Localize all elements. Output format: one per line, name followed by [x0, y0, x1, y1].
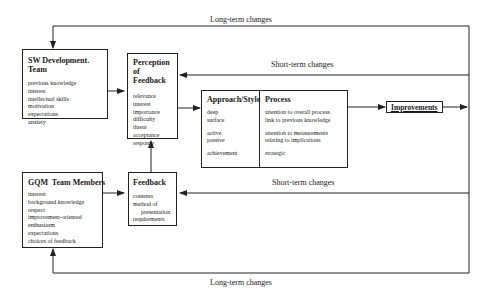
improvements-box: Improvements [386, 101, 443, 113]
feedback-item: contents [133, 193, 172, 201]
approach-style-column: Approach/Style deep surface active passi… [202, 91, 260, 167]
sw-team-item: previous knowledge [28, 80, 102, 88]
process-column: Process attention to overall process lin… [260, 91, 347, 167]
perception-title-line1: Perception of [133, 58, 172, 76]
long-term-changes-bottom-label: Long-term changes [210, 278, 272, 287]
gqm-team-item: interest [28, 191, 97, 199]
perception-item: threat [133, 124, 172, 132]
short-term-changes-top-label: Short-term changes [271, 60, 333, 69]
process-item: attention to overall process [265, 109, 342, 117]
approach-item: active [207, 130, 254, 138]
perception-item: interest [133, 101, 172, 109]
feedback-title: Feedback [133, 178, 172, 187]
gqm-team-title: GQM Team Members [28, 178, 97, 187]
long-term-changes-top-label: Long-term changes [210, 15, 272, 24]
sw-development-team-box: SW Development. Team previous knowledge … [22, 49, 108, 119]
feedback-item: presentation [133, 209, 172, 217]
sw-team-item: motivation [28, 103, 102, 111]
perception-item: importance [133, 109, 172, 117]
gqm-team-item: improvement-oriented [28, 214, 97, 222]
perception-of-feedback-box: Perception of Feedback relevance interes… [127, 53, 178, 139]
short-term-changes-bottom-label: Short-term changes [272, 178, 334, 187]
process-title: Process [265, 95, 342, 104]
approach-title: Approach/Style [207, 95, 254, 104]
perception-item: acceptance [133, 132, 172, 140]
gqm-team-item: respect [28, 207, 97, 215]
sw-team-item: intellectual skills [28, 96, 102, 104]
gqm-team-members-box: GQM Team Members interest background kno… [22, 172, 103, 248]
approach-item: achievement [207, 150, 254, 158]
perception-item: difficulty [133, 116, 172, 124]
sw-team-item: anxiety [28, 119, 102, 127]
approach-process-box: Approach/Style deep surface active passi… [201, 90, 348, 168]
process-item: attention to measurements [265, 130, 342, 138]
gqm-team-item: enthusiasm [28, 222, 97, 230]
sw-team-item: expectations [28, 111, 102, 119]
improvements-title: Improvements [391, 103, 438, 112]
approach-item: deep [207, 109, 254, 117]
perception-item: response [133, 140, 172, 148]
perception-title-line2: Feedback [133, 76, 172, 85]
process-item: strategic [265, 150, 342, 158]
feedback-box: Feedback contents method of presentation… [128, 172, 177, 226]
feedback-item: method of [133, 201, 172, 209]
gqm-team-item: background knowledge [28, 199, 97, 207]
approach-item: surface [207, 117, 254, 125]
approach-item: passive [207, 137, 254, 145]
process-item: relating to implications [265, 137, 342, 145]
perception-item: relevance [133, 93, 172, 101]
feedback-item: requirements [133, 216, 172, 224]
gqm-team-item: choices of feedback [28, 238, 97, 246]
sw-team-title: SW Development. Team [28, 56, 102, 74]
process-item: link to previous knowledge [265, 117, 342, 125]
sw-team-item: interest [28, 88, 102, 96]
gqm-team-item: expectations [28, 230, 97, 238]
